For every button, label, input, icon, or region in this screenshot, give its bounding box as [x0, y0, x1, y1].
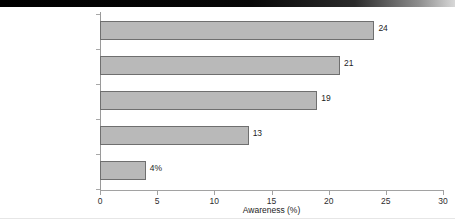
- bar-value-label: 24: [378, 23, 387, 33]
- bar: [100, 126, 249, 145]
- value-axis-tick: [386, 191, 387, 195]
- value-axis-tick: [214, 191, 215, 195]
- bar-value-label: 4%: [150, 163, 162, 173]
- bar-value-label: 19: [321, 93, 330, 103]
- value-axis-tick: [157, 191, 158, 195]
- value-axis-tick: [443, 191, 444, 195]
- category-axis-tick: [96, 14, 100, 15]
- bar: [100, 91, 317, 110]
- bar: [100, 56, 340, 75]
- bar-value-label: 13: [253, 128, 262, 138]
- page-bottom-edge: [0, 218, 455, 219]
- category-axis-tick: [96, 189, 100, 190]
- value-axis-tick: [272, 191, 273, 195]
- bar: [100, 21, 374, 40]
- bar: [100, 161, 146, 180]
- category-axis-tick: [96, 119, 100, 120]
- awareness-bar-chart: Internet ads 24 TV ads 21 Press ads 19 E…: [0, 0, 455, 219]
- category-axis-tick: [96, 49, 100, 50]
- x-axis-title: Awareness (%): [100, 205, 443, 215]
- value-axis-tick: [100, 191, 101, 195]
- category-axis-tick: [96, 84, 100, 85]
- category-axis-tick: [96, 154, 100, 155]
- bar-value-label: 21: [344, 58, 353, 68]
- value-axis-tick: [329, 191, 330, 195]
